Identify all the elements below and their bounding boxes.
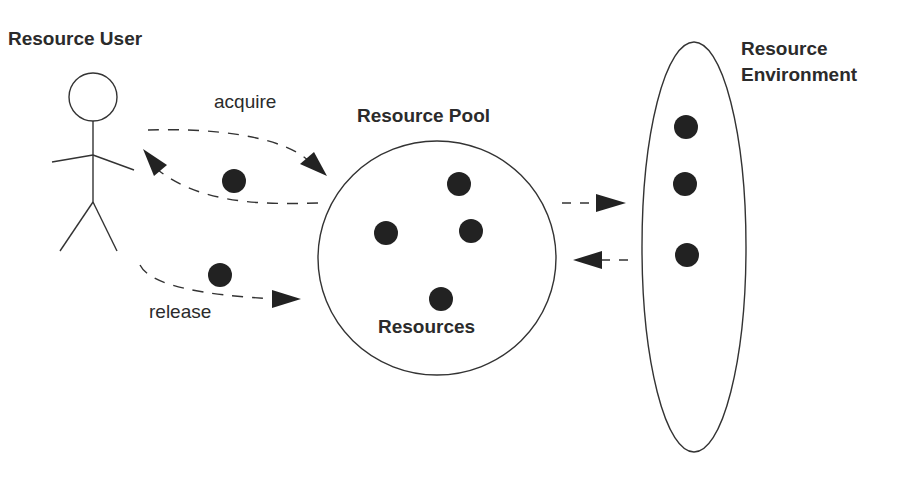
acquire-return-arrowhead-icon: [143, 149, 167, 176]
actor-head: [69, 73, 117, 121]
acquired-resource-dot: [222, 169, 246, 193]
stick-figure-icon: [52, 73, 134, 251]
release-arrowhead-icon: [272, 290, 301, 308]
environment-resource-dot: [673, 172, 697, 196]
released-resource-dot: [208, 263, 232, 287]
resource-user-label: Resource User: [8, 28, 143, 49]
pool-to-environment-arrowhead-icon: [596, 194, 626, 212]
acquire-request-arc: [148, 130, 312, 164]
actor-right-arm: [93, 155, 134, 170]
environment-to-pool-arrowhead-icon: [573, 251, 602, 269]
release-arc: [140, 265, 275, 299]
actor-right-leg: [93, 202, 117, 251]
pool-resource-dot: [374, 221, 398, 245]
resource-pool-title: Resource Pool: [357, 105, 490, 126]
actor-left-arm: [52, 155, 93, 162]
environment-resource-dot: [674, 115, 698, 139]
environment-resource-dot: [675, 243, 699, 267]
resource-environment-title-line2: Environment: [741, 64, 858, 85]
pool-resource-dot: [447, 172, 471, 196]
pool-resource-dot: [429, 287, 453, 311]
release-label: release: [149, 301, 211, 322]
resource-pool-circle: [318, 141, 556, 375]
resource-pool-diagram: Resource User acquire release Resource P…: [0, 0, 919, 481]
actor-left-leg: [60, 202, 93, 251]
pool-resource-dot: [459, 219, 483, 243]
acquire-request-arrowhead-icon: [300, 152, 327, 176]
acquire-label: acquire: [214, 91, 276, 112]
resources-label: Resources: [378, 316, 475, 337]
resource-environment-title-line1: Resource: [741, 38, 828, 59]
